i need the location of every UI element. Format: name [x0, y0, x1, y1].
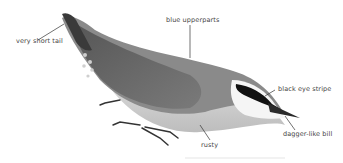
label-underparts: rusty	[201, 141, 218, 149]
label-tail: very short tail	[16, 37, 63, 45]
label-upperparts: blue upperparts	[166, 16, 219, 24]
bird-illustration: very short tail blue upperparts black ey…	[0, 0, 343, 163]
label-eye-stripe: black eye stripe	[278, 85, 331, 93]
nuthatch-drawing	[0, 0, 343, 163]
label-bill: dagger-like bill	[283, 130, 332, 138]
